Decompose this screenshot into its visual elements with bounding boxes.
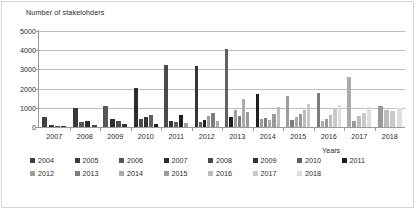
bar	[110, 119, 115, 127]
legend-item-2017[interactable]: 2017	[253, 169, 298, 178]
legend-item-2013[interactable]: 2013	[75, 169, 120, 178]
y-axis-tick-mark	[35, 69, 38, 70]
bar	[234, 110, 237, 127]
bar	[325, 119, 328, 127]
bar	[55, 126, 60, 127]
bar	[317, 93, 320, 127]
y-axis-tick-mark	[35, 108, 38, 109]
bar	[256, 94, 259, 127]
y-axis-tick-mark	[35, 127, 38, 128]
plot-area	[39, 31, 405, 127]
bar	[238, 116, 241, 127]
legend-item-2015[interactable]: 2015	[164, 169, 209, 178]
bar	[116, 121, 121, 127]
bar	[299, 114, 302, 127]
legend-item-2011[interactable]: 2011	[342, 156, 387, 165]
legend-item-2007[interactable]: 2007	[164, 156, 209, 165]
legend-label: 2009	[261, 156, 277, 165]
legend-swatch-icon	[164, 171, 169, 176]
bar-cluster	[283, 31, 314, 127]
bar	[103, 106, 108, 127]
legend-item-2018[interactable]: 2018	[297, 169, 342, 178]
legend-item-2008[interactable]: 2008	[208, 156, 253, 165]
x-axis-tick-mark	[131, 127, 132, 131]
bar	[73, 108, 78, 127]
y-axis-tick-label: 3000	[4, 65, 36, 74]
bar	[207, 116, 210, 127]
legend-item-2012[interactable]: 2012	[30, 169, 75, 178]
bar	[295, 117, 298, 127]
legend-item-2016[interactable]: 2016	[208, 169, 253, 178]
legend-item-2009[interactable]: 2009	[253, 156, 298, 165]
bar	[139, 119, 143, 127]
legend-swatch-icon	[119, 171, 124, 176]
bar-cluster	[70, 31, 101, 127]
bar	[397, 108, 402, 127]
y-axis-tick-mark	[35, 89, 38, 90]
bar	[144, 117, 148, 127]
bar	[384, 110, 389, 127]
legend-item-2004[interactable]: 2004	[30, 156, 75, 165]
bar	[199, 122, 202, 127]
bar	[184, 123, 188, 127]
legend-label: 2013	[83, 169, 99, 178]
y-axis-tick-mark	[35, 50, 38, 51]
y-axis-tick-label: 2000	[4, 84, 36, 93]
bar-cluster	[222, 31, 253, 127]
x-axis-tick-label: 2018	[382, 132, 398, 141]
legend-label: 2016	[216, 169, 232, 178]
legend-swatch-icon	[75, 158, 80, 163]
bar	[352, 121, 356, 127]
bar	[268, 120, 271, 127]
y-axis-title: Number of stakelohders	[26, 8, 105, 17]
bar	[260, 119, 263, 127]
bar	[378, 106, 383, 127]
bar	[246, 112, 249, 127]
x-axis-tick-label: 2015	[290, 132, 306, 141]
bar	[362, 113, 366, 127]
legend-label: 2004	[38, 156, 54, 165]
y-axis-tick-mark	[35, 31, 38, 32]
bar-cluster	[344, 31, 375, 127]
legend-label: 2011	[350, 156, 365, 165]
bar	[174, 122, 178, 127]
x-axis-tick-mark	[161, 127, 162, 131]
legend-swatch-icon	[75, 171, 80, 176]
bar	[225, 49, 228, 127]
legend-item-2005[interactable]: 2005	[75, 156, 120, 165]
x-axis-tick-mark	[192, 127, 193, 131]
legend-item-2014[interactable]: 2014	[119, 169, 164, 178]
legend-label: 2015	[172, 169, 188, 178]
bar-cluster	[375, 31, 406, 127]
bar	[85, 121, 90, 127]
bar	[329, 115, 332, 127]
legend: 2004200520062007200820092010201120122013…	[30, 154, 390, 180]
x-axis-tick-mark	[344, 127, 345, 131]
bar	[347, 77, 351, 127]
legend-swatch-icon	[297, 171, 302, 176]
bar	[61, 126, 66, 127]
legend-label: 2006	[127, 156, 143, 165]
bar	[154, 124, 158, 127]
legend-swatch-icon	[253, 171, 258, 176]
legend-item-2010[interactable]: 2010	[297, 156, 342, 165]
bar	[264, 118, 267, 127]
bar	[242, 99, 245, 127]
legend-swatch-icon	[342, 158, 347, 163]
x-axis-tick-mark	[253, 127, 254, 131]
x-axis-tick-label: 2014	[260, 132, 276, 141]
x-axis-tick-mark	[314, 127, 315, 131]
x-axis-tick-label: 2016	[321, 132, 337, 141]
legend-swatch-icon	[30, 171, 35, 176]
bar	[333, 108, 336, 127]
bar	[216, 121, 219, 127]
bar	[149, 115, 153, 127]
x-axis-tick-label: 2011	[169, 132, 184, 141]
legend-label: 2012	[38, 169, 54, 178]
bar	[42, 117, 47, 127]
bar-cluster	[253, 31, 284, 127]
legend-row: 2012201320142015201620172018	[30, 167, 390, 180]
legend-item-2006[interactable]: 2006	[119, 156, 164, 165]
bar	[290, 120, 293, 127]
legend-swatch-icon	[30, 158, 35, 163]
